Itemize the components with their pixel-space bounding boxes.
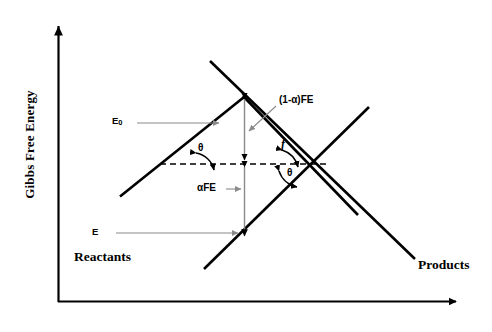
y-axis-title: Gibbs Free Energy xyxy=(23,65,36,225)
one-minus-alpha-fe-label: (1-α)FE xyxy=(279,95,313,105)
theta-left-label: θ xyxy=(198,143,203,153)
figure-canvas: Gibbs Free Energy Reactants Products E0 … xyxy=(0,0,492,332)
alpha-fe-label: αFE xyxy=(197,183,216,193)
e0-label-subscript: 0 xyxy=(118,118,122,127)
theta-right-label: θ xyxy=(287,168,292,178)
f-angle-label: f xyxy=(281,138,285,150)
free-energy-lines xyxy=(120,61,415,269)
reactants-label: Reactants xyxy=(74,250,131,264)
diagram-svg xyxy=(0,0,492,332)
reactant-line-upper xyxy=(120,96,246,197)
reactant-line-lower xyxy=(204,107,369,269)
product-line-upper xyxy=(210,61,415,259)
theta-left-arc xyxy=(196,153,214,170)
products-label: Products xyxy=(418,258,470,272)
product-line-lower xyxy=(243,96,358,215)
e-label: E xyxy=(92,227,98,237)
e0-label: E0 xyxy=(112,116,123,127)
